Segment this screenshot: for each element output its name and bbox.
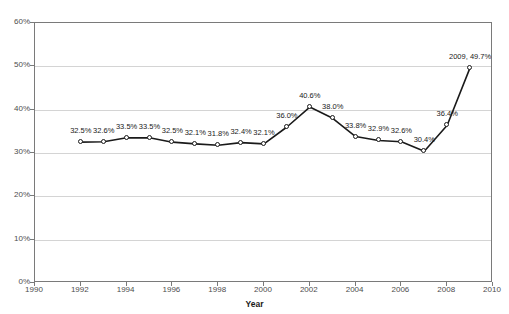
plot-area: 32.5%32.6%33.5%33.5%32.5%32.1%31.8%32.4%… [34,22,492,282]
y-axis-tick-mark [30,239,34,240]
y-axis-tick-label: 50% [0,60,30,69]
x-axis-tick-label: 2000 [243,285,283,294]
x-axis-tick-label: 2002 [289,285,329,294]
data-point-label: 32.5% [70,126,91,135]
data-point-marker [78,139,83,144]
data-point-marker [101,139,106,144]
data-point-label: 32.1% [185,128,206,137]
data-point-marker [307,104,312,109]
x-axis-tick-mark [492,282,493,286]
y-axis-tick-label: 20% [0,190,30,199]
data-point-label: 36.0% [276,111,297,120]
data-point-marker [353,134,358,139]
x-axis-tick-mark [80,282,81,286]
x-axis-tick-label: 1998 [197,285,237,294]
x-axis-tick-label: 1990 [14,285,54,294]
data-point-marker [147,135,152,140]
data-point-marker [284,124,289,129]
data-point-label: 33.8% [345,121,366,130]
x-axis-tick-mark [217,282,218,286]
data-point-label: 30.4% [414,135,435,144]
data-point-label: 36.4% [437,109,458,118]
x-axis-tick-mark [34,282,35,286]
x-axis-tick-mark [126,282,127,286]
x-axis-tick-label: 2008 [426,285,466,294]
data-point-marker [261,141,266,146]
y-axis-tick-mark [30,152,34,153]
data-point-label: 33.5% [139,122,160,131]
x-axis-tick-mark [309,282,310,286]
data-point-label: 40.6% [299,91,320,100]
y-axis-tick-mark [30,65,34,66]
x-axis-tick-mark [171,282,172,286]
data-point-label: 31.8% [208,129,229,138]
data-point-label: 32.5% [162,126,183,135]
data-point-label: 32.9% [368,124,389,133]
data-point-label: 38.0% [322,102,343,111]
y-axis-tick-label: 40% [0,104,30,113]
x-axis-tick-mark [400,282,401,286]
x-axis-tick-mark [263,282,264,286]
y-axis-tick-label: 60% [0,17,30,26]
data-point-marker [467,65,472,70]
data-point-marker [238,140,243,145]
data-point-marker [124,135,129,140]
data-point-label: 2009, 49.7% [449,52,491,61]
chart-container: 32.5%32.6%33.5%33.5%32.5%32.1%31.8%32.4%… [0,0,509,314]
x-axis-tick-mark [446,282,447,286]
y-axis-tick-label: 30% [0,147,30,156]
x-axis-tick-label: 2006 [380,285,420,294]
x-axis-tick-label: 2004 [335,285,375,294]
x-axis-tick-label: 1994 [106,285,146,294]
x-axis-title: Year [0,299,509,309]
data-point-label: 33.5% [116,122,137,131]
faint-header-text [50,0,230,7]
line-series [35,23,493,283]
y-axis-tick-mark [30,109,34,110]
x-axis-tick-label: 1992 [60,285,100,294]
data-point-label: 32.1% [253,128,274,137]
data-point-label: 32.6% [391,126,412,135]
x-axis-tick-label: 1996 [151,285,191,294]
y-axis-tick-label: 10% [0,234,30,243]
data-point-label: 32.6% [93,126,114,135]
x-axis-tick-label: 2010 [472,285,509,294]
data-point-label: 32.4% [230,127,251,136]
y-axis-tick-mark [30,22,34,23]
y-axis-tick-mark [30,195,34,196]
x-axis-tick-mark [355,282,356,286]
